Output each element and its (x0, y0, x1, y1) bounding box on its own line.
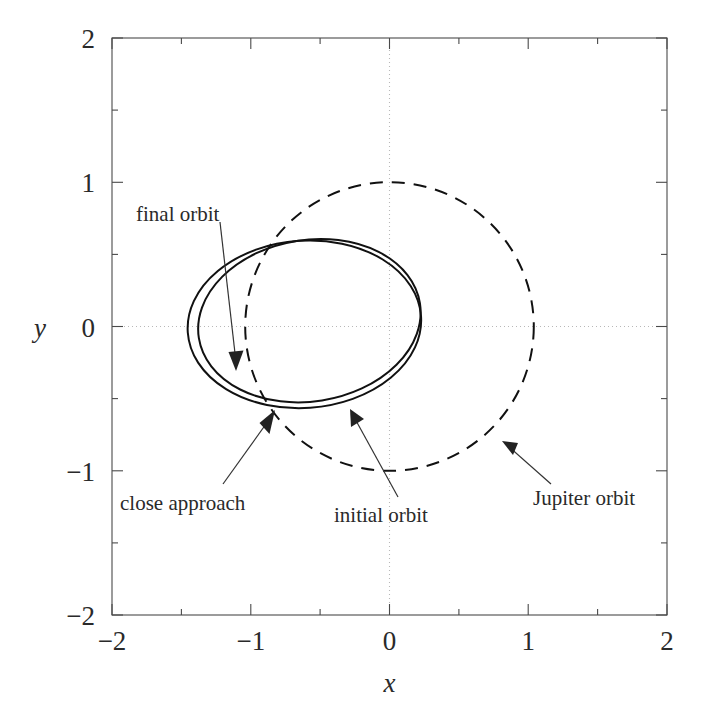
orbit-plot-svg: final orbit close approach initial orbit… (0, 0, 701, 714)
y-tick-label-4: −2 (66, 601, 95, 631)
orbit-figure: final orbit close approach initial orbit… (0, 0, 701, 714)
y-tick-label-0: 2 (82, 24, 96, 54)
y-tick-labels: 2 1 0 −1 −2 (66, 24, 95, 631)
x-axis-ticks-bottom (112, 604, 667, 615)
x-tick-label-2: 0 (383, 626, 397, 656)
annotation-label-final-orbit: final orbit (136, 202, 220, 226)
y-axis-label: y (31, 313, 46, 343)
y-tick-label-3: −1 (66, 457, 95, 487)
x-tick-label-0: −2 (98, 626, 127, 656)
curve-initial-orbit (182, 233, 427, 416)
y-tick-label-1: 1 (82, 168, 96, 198)
arrowhead-initial-orbit (350, 409, 364, 427)
x-tick-label-3: 1 (521, 626, 535, 656)
annotation-label-close-approach: close approach (120, 491, 246, 515)
y-axis-ticks-right (656, 38, 667, 615)
annotation-jupiter-orbit: Jupiter orbit (502, 441, 635, 510)
annotation-label-jupiter-orbit: Jupiter orbit (533, 486, 635, 510)
annotation-close-approach: close approach (120, 410, 275, 515)
y-axis-ticks-left (112, 38, 123, 615)
x-tick-label-1: −1 (236, 626, 265, 656)
leader-line-initial-orbit (354, 417, 398, 497)
annotation-label-initial-orbit: initial orbit (334, 503, 428, 527)
x-tick-labels: −2 −1 0 1 2 (98, 626, 674, 656)
x-axis-label: x (383, 668, 396, 698)
y-tick-label-2: 0 (82, 313, 96, 343)
x-tick-label-4: 2 (660, 626, 674, 656)
arrowhead-final-orbit (229, 351, 244, 372)
x-axis-ticks-top (112, 38, 667, 49)
leader-line-final-orbit (220, 222, 236, 362)
leader-line-jupiter-orbit (508, 446, 551, 484)
